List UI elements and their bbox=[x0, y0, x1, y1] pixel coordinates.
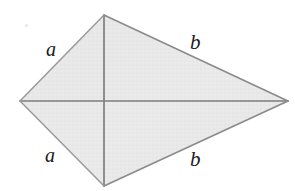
paper-speck-artifact bbox=[25, 24, 28, 27]
side-label-b-upper: b bbox=[190, 32, 201, 53]
side-label-a-lower: a bbox=[45, 145, 55, 165]
kite-figure: a a b b bbox=[0, 0, 295, 191]
side-label-b-lower: b bbox=[190, 149, 201, 170]
side-label-a-upper: a bbox=[46, 39, 56, 59]
